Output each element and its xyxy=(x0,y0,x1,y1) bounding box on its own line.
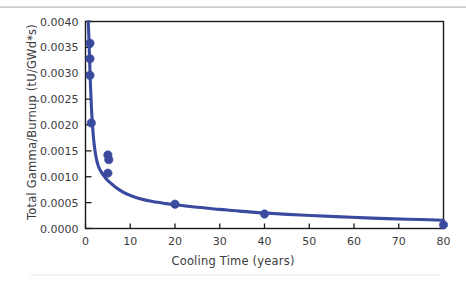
data-point xyxy=(260,210,268,218)
y-tick-label: 0.0000 xyxy=(40,223,79,236)
x-axis-label: Cooling Time (years) xyxy=(0,254,466,268)
data-point xyxy=(104,169,112,177)
data-point xyxy=(171,200,179,208)
y-tick-label: 0.0030 xyxy=(40,67,79,80)
data-point xyxy=(86,55,94,63)
x-tick-label: 0 xyxy=(82,235,89,248)
x-tick-label: 60 xyxy=(347,235,361,248)
data-point xyxy=(87,119,95,127)
y-axis-label: Total Gamma/Burnup (tU/GWd*s) xyxy=(25,7,39,237)
x-tick-label: 30 xyxy=(213,235,227,248)
y-tick-label: 0.0020 xyxy=(40,119,79,132)
plot-canvas: 01020304050607080 0.00000.00050.00100.00… xyxy=(0,0,466,281)
data-point xyxy=(86,71,94,79)
y-tick-label: 0.0040 xyxy=(40,16,79,29)
y-tick-label: 0.0025 xyxy=(40,93,79,106)
x-tick-label: 10 xyxy=(123,235,137,248)
y-tick-label: 0.0010 xyxy=(40,171,79,184)
data-point xyxy=(439,221,447,229)
x-tick-label: 50 xyxy=(302,235,316,248)
data-point xyxy=(105,155,113,163)
y-tick-label: 0.0035 xyxy=(40,41,79,54)
x-tick-label: 40 xyxy=(258,235,272,248)
x-tick-label: 80 xyxy=(437,235,451,248)
x-axis-tick-labels: 01020304050607080 xyxy=(82,235,451,248)
x-tick-label: 70 xyxy=(392,235,406,248)
chart-figure: 01020304050607080 0.00000.00050.00100.00… xyxy=(0,0,466,281)
x-tick-label: 20 xyxy=(168,235,182,248)
y-axis-tick-labels: 0.00000.00050.00100.00150.00200.00250.00… xyxy=(40,16,79,236)
y-tick-label: 0.0005 xyxy=(40,197,79,210)
y-axis-label-wrapper: Total Gamma/Burnup (tU/GWd*s) xyxy=(25,7,41,237)
y-tick-label: 0.0015 xyxy=(40,145,79,158)
data-point xyxy=(86,39,94,47)
